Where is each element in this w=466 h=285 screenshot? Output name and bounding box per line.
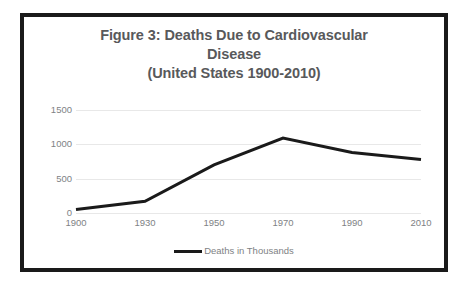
- x-axis-tick-labels: 190019301950197019902010: [76, 217, 421, 233]
- chart-legend: Deaths in Thousands: [24, 245, 444, 257]
- figure-screenshot: Figure 3: Deaths Due to Cardiovascular D…: [0, 0, 466, 285]
- legend-label: Deaths in Thousands: [204, 245, 294, 257]
- chart-title-line-3: (United States 1900-2010): [24, 64, 444, 83]
- legend-item-deaths-in-thousands: Deaths in Thousands: [174, 245, 294, 257]
- y-axis-tick-labels: 050010001500: [32, 110, 72, 213]
- chart-title-line-1: Figure 3: Deaths Due to Cardiovascular: [24, 26, 444, 45]
- legend-line-swatch-icon: [174, 250, 202, 253]
- plot-region: [76, 110, 421, 213]
- chart-title: Figure 3: Deaths Due to Cardiovascular D…: [24, 26, 444, 83]
- x-tick-label-1950: 1950: [184, 217, 244, 229]
- x-tick-label-1930: 1930: [115, 217, 175, 229]
- x-tick-label-2010: 2010: [391, 217, 451, 229]
- figure-border-frame: Figure 3: Deaths Due to Cardiovascular D…: [20, 13, 448, 272]
- chart-title-line-2: Disease: [24, 45, 444, 64]
- series-line-deaths-in-thousands: [76, 138, 421, 209]
- series-line-chart: [76, 110, 421, 213]
- y-tick-label-1000: 1000: [32, 139, 72, 149]
- chart-area: Figure 3: Deaths Due to Cardiovascular D…: [24, 17, 444, 268]
- gridline-0: [76, 213, 421, 214]
- x-tick-label-1900: 1900: [46, 217, 106, 229]
- y-tick-label-500: 500: [32, 174, 72, 184]
- y-tick-label-1500: 1500: [32, 105, 72, 115]
- x-tick-label-1990: 1990: [322, 217, 382, 229]
- x-tick-label-1970: 1970: [253, 217, 313, 229]
